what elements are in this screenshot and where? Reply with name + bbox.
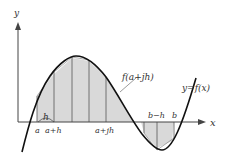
- trapezoid-diagram: y x h a a+h a+jh b−h b f(a+jh) y=f(x): [0, 0, 230, 160]
- y-axis-arrow-icon: [15, 22, 21, 30]
- shaded-region-positive: [37, 58, 133, 122]
- shaded-region-negative: [141, 122, 174, 148]
- tick-label-a-plus-h: a+h: [45, 126, 62, 135]
- curve-label: y=f(x): [181, 83, 211, 93]
- callout-label: f(a+jh): [121, 72, 154, 82]
- x-axis-label: x: [210, 117, 216, 128]
- step-label: h: [43, 112, 49, 122]
- tick-label-a-plus-jh: a+jh: [95, 126, 114, 135]
- tick-label-b-minus-h: b−h: [148, 111, 165, 120]
- tick-label-a: a: [35, 126, 40, 135]
- x-axis-arrow-icon: [198, 119, 206, 125]
- y-axis-label: y: [13, 8, 20, 18]
- tick-label-b: b: [172, 111, 177, 120]
